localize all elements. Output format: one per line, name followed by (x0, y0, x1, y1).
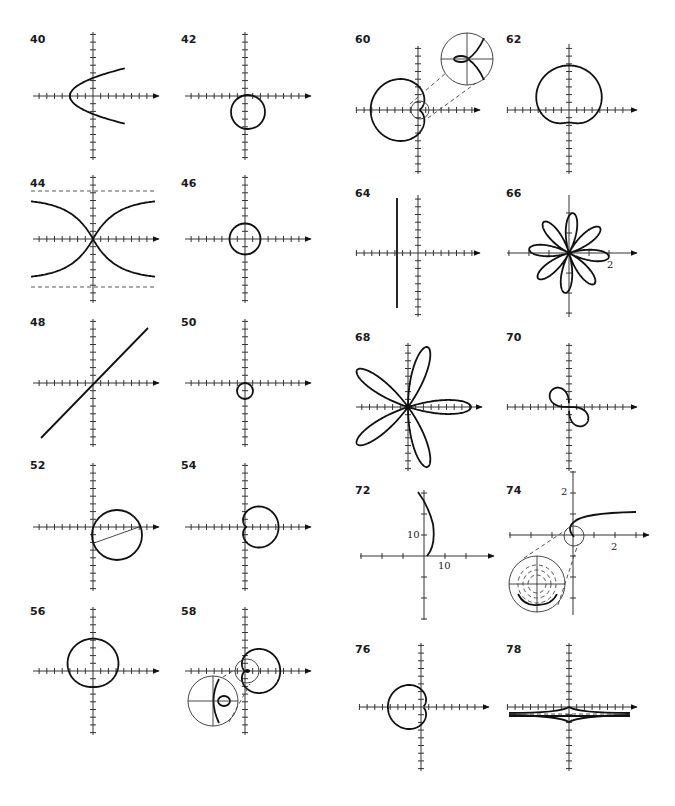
panel-label-48: 48 (30, 316, 45, 329)
curve-44 (93, 201, 155, 239)
panel-label-60: 60 (355, 33, 370, 46)
panel-label-72: 72 (355, 484, 370, 497)
panel-label-46: 46 (181, 177, 196, 190)
panel-label-42: 42 (181, 33, 196, 46)
curve-70b (569, 407, 588, 426)
panel-label-62: 62 (506, 33, 521, 46)
panel-label-54: 54 (181, 459, 196, 472)
inset-curve-60b (468, 59, 484, 80)
panel-label-76: 76 (355, 643, 370, 656)
panel-label-66: 66 (506, 187, 521, 200)
panel-label-78: 78 (506, 643, 521, 656)
curve-44 (31, 239, 93, 277)
curve-42 (231, 95, 265, 129)
panel-label-64: 64 (355, 187, 370, 200)
inset-curve-60a (468, 38, 484, 59)
tick-label-72-y: 10 (407, 529, 420, 540)
tick-label-66-x: 2 (607, 259, 613, 270)
graph-canvas (0, 0, 675, 806)
curve-74 (570, 512, 636, 537)
tick-label-74-y: 2 (561, 486, 567, 497)
panel-label-52: 52 (30, 459, 45, 472)
curve-72 (418, 492, 434, 556)
panel-label-70: 70 (506, 331, 521, 344)
tick-label-72-x: 10 (438, 560, 451, 571)
panel-label-44: 44 (30, 177, 45, 190)
panel-label-40: 40 (30, 33, 45, 46)
panel-label-74: 74 (506, 484, 521, 497)
panel-label-56: 56 (30, 605, 45, 618)
tick-label-74-x: 2 (611, 541, 617, 552)
curve-44 (93, 239, 155, 277)
curve-70a (550, 388, 569, 407)
panel-label-58: 58 (181, 605, 196, 618)
curve-44 (31, 201, 93, 239)
panel-label-68: 68 (355, 331, 370, 344)
panel-label-50: 50 (181, 316, 196, 329)
